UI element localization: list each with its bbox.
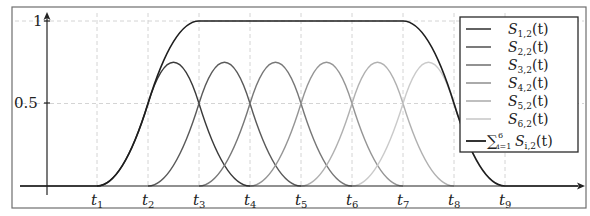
x-tick-label-t7: t7 bbox=[397, 191, 409, 210]
x-tick-label-t6: t6 bbox=[346, 191, 358, 210]
basis-curve-5 bbox=[301, 62, 454, 186]
basis-curve-4 bbox=[250, 62, 403, 186]
y-tick-label-1: 1 bbox=[33, 12, 43, 30]
x-tick-label-t4: t4 bbox=[244, 191, 256, 210]
legend: S1,2(t)S2,2(t)S3,2(t)S4,2(t)S5,2(t)S6,2(… bbox=[460, 17, 578, 152]
basis-curve-3 bbox=[199, 62, 352, 186]
sum-lower-index: i=1 bbox=[497, 142, 511, 151]
x-tick-labels: t1t2t3t4t5t6t7t8t9 bbox=[91, 191, 511, 210]
x-tick-label-t5: t5 bbox=[295, 191, 307, 210]
basis-curve-2 bbox=[148, 62, 301, 186]
x-tick-label-t9: t9 bbox=[499, 191, 511, 210]
basis-curve-1 bbox=[97, 62, 250, 186]
bspline-chart: 1 0.5 t1t2t3t4t5t6t7t8t9 S1,2(t)S2,2(t)S… bbox=[0, 0, 590, 216]
x-tick-label-t1: t1 bbox=[91, 191, 103, 210]
x-tick-label-t8: t8 bbox=[448, 191, 460, 210]
y-tick-label-0-5: 0.5 bbox=[14, 94, 38, 112]
sum-upper-index: 6 bbox=[498, 131, 503, 140]
x-tick-label-t3: t3 bbox=[193, 191, 205, 210]
x-tick-label-t2: t2 bbox=[142, 191, 154, 210]
